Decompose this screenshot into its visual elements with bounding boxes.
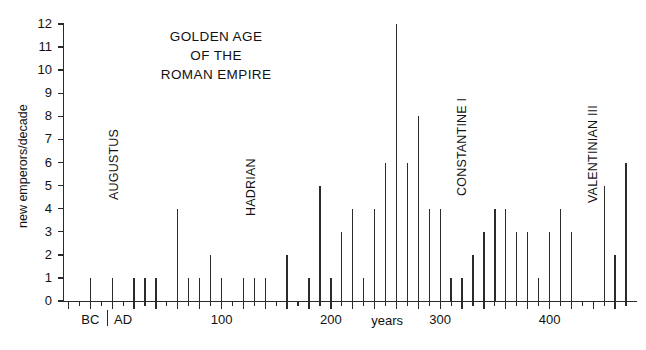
x-tick (549, 302, 550, 309)
y-tick (58, 185, 64, 186)
bar (133, 278, 134, 301)
y-tick (58, 139, 64, 140)
bar (527, 232, 528, 301)
bar (144, 278, 145, 301)
x-tick (418, 302, 419, 309)
y-tick (58, 231, 64, 232)
x-tick-minor (385, 302, 386, 306)
bar (221, 278, 222, 301)
x-tick-minor (472, 302, 473, 306)
bar (265, 278, 266, 301)
y-tick (58, 46, 64, 47)
bar (210, 255, 211, 301)
bar (112, 278, 113, 301)
x-tick-minor (363, 302, 364, 306)
y-tick-label: 10 (30, 63, 52, 76)
x-tick-minor (538, 302, 539, 306)
x-tick-minor (625, 302, 626, 306)
x-tick (221, 302, 222, 309)
x-tick (593, 302, 594, 309)
x-tick-minor (188, 302, 189, 306)
y-tick (58, 116, 64, 117)
bar (286, 255, 287, 301)
y-tick-label: 9 (30, 86, 52, 99)
chart-title-line-2: OF THE (136, 46, 296, 65)
x-tick (155, 302, 156, 309)
y-tick-label: 7 (30, 132, 52, 145)
bar (614, 255, 615, 301)
bar (505, 209, 506, 301)
x-tick-label: 100 (199, 313, 245, 326)
y-tick (58, 93, 64, 94)
x-tick (112, 302, 113, 309)
x-tick (374, 302, 375, 309)
bar (363, 278, 364, 301)
bar (90, 278, 91, 301)
bar (538, 278, 539, 301)
emperor-annotation: AUGUSTUS (107, 129, 121, 200)
bar (374, 209, 375, 301)
x-tick (243, 302, 244, 309)
chart-title: GOLDEN AGE OF THE ROMAN EMPIRE (136, 27, 296, 84)
emperor-annotation: HADRIAN (244, 158, 258, 216)
x-tick (177, 302, 178, 309)
bar (604, 186, 605, 301)
x-tick (571, 302, 572, 309)
x-tick-label: 400 (527, 313, 573, 326)
y-tick-label: 6 (30, 156, 52, 169)
y-axis-title: new emperors/decade (16, 104, 30, 228)
y-tick-label: 0 (30, 294, 52, 307)
x-tick-minor (232, 302, 233, 306)
bar (429, 209, 430, 301)
bar (308, 278, 309, 301)
y-tick-label: 3 (30, 225, 52, 238)
x-tick-minor (79, 302, 80, 306)
x-tick-minor (319, 302, 320, 306)
bar (571, 232, 572, 301)
bar (625, 163, 626, 302)
x-tick (330, 302, 331, 309)
y-tick-label: 1 (30, 271, 52, 284)
bar (352, 209, 353, 301)
y-tick (58, 277, 64, 278)
x-tick (133, 302, 134, 309)
x-tick (352, 302, 353, 309)
x-tick-minor (210, 302, 211, 306)
bar (418, 116, 419, 301)
x-tick-minor (297, 302, 298, 306)
bar (472, 255, 473, 301)
y-tick-label: 5 (30, 179, 52, 192)
x-tick-minor (429, 302, 430, 306)
bar (494, 209, 495, 301)
bar (319, 186, 320, 301)
x-axis-title: years (371, 313, 403, 328)
x-tick-minor (254, 302, 255, 306)
bar (243, 278, 244, 301)
y-tick (58, 23, 64, 24)
x-tick (90, 302, 91, 309)
x-tick (505, 302, 506, 309)
y-tick-label: 2 (30, 248, 52, 261)
bar (254, 278, 255, 301)
y-tick (58, 300, 64, 301)
x-tick-minor (123, 302, 124, 306)
x-tick-minor (582, 302, 583, 306)
x-tick-label: 200 (308, 313, 354, 326)
bar (450, 278, 451, 301)
chart-title-line-3: ROMAN EMPIRE (136, 65, 296, 84)
bar (177, 209, 178, 301)
bar (560, 209, 561, 301)
emperor-annotation: CONSTANTINE I (455, 98, 469, 196)
x-tick (199, 302, 200, 309)
bar (155, 278, 156, 301)
bar (396, 24, 397, 301)
x-tick-minor (276, 302, 277, 306)
x-tick (68, 302, 69, 309)
x-tick-minor (101, 302, 102, 306)
bc-ad-divider (107, 310, 108, 326)
x-tick (461, 302, 462, 309)
x-tick-minor (144, 302, 145, 306)
x-tick-minor (451, 302, 452, 306)
x-tick-minor (341, 302, 342, 306)
x-tick (308, 302, 309, 309)
